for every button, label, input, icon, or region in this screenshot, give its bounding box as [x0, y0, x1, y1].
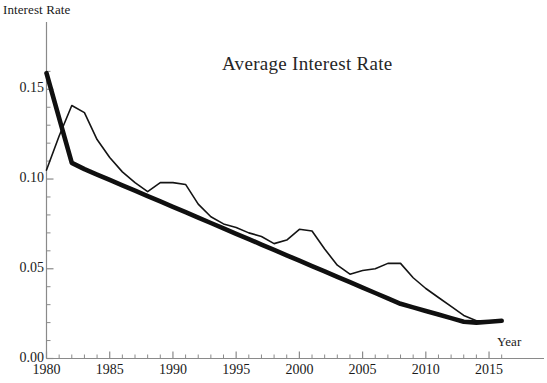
y-tick-label: 0.15: [0, 80, 44, 96]
x-tick-label: 2010: [396, 362, 456, 378]
axis-lines: [47, 22, 545, 359]
plot-area: [0, 0, 547, 383]
trend-line-series: [47, 73, 502, 322]
x-tick-label: 2000: [269, 362, 329, 378]
x-tick-label: 1980: [17, 362, 77, 378]
y-tick-label: 0.05: [0, 260, 44, 276]
x-tick-label: 1985: [80, 362, 140, 378]
x-tick-label: 2015: [459, 362, 519, 378]
data-series-layer: [47, 73, 502, 322]
y-tick-label: 0.10: [0, 170, 44, 186]
y-axis-ticks: [47, 71, 54, 358]
x-tick-label: 1990: [143, 362, 203, 378]
chart-figure: Interest Rate Average Interest Rate Year…: [0, 0, 547, 383]
x-tick-label: 2005: [333, 362, 393, 378]
interest-rate-series: [47, 105, 502, 320]
x-axis-ticks: [47, 352, 502, 359]
x-tick-label: 1995: [206, 362, 266, 378]
